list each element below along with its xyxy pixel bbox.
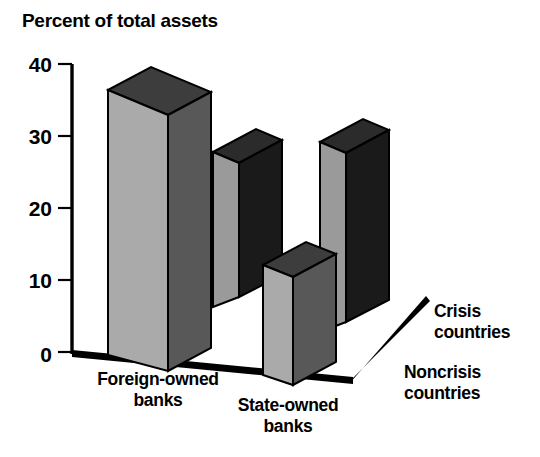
y-tick-label-40: 40 bbox=[29, 53, 52, 76]
legend-item-crisis-countries-line2: countries bbox=[434, 322, 511, 342]
y-tick-label-30: 30 bbox=[29, 125, 52, 148]
bar-chart-plot: 40 30 20 10 0 bbox=[0, 0, 540, 457]
legend-item-noncrisis-countries-line1: Noncrisis bbox=[404, 362, 482, 382]
y-tick-label-0: 0 bbox=[40, 343, 52, 366]
y-axis: 40 30 20 10 0 bbox=[29, 53, 72, 366]
bar-noncrisis-foreign-owned bbox=[108, 67, 211, 371]
chart-container: Percent of total assets 40 30 20 10 0 bbox=[0, 0, 540, 457]
legend-item-crisis-countries-line1: Crisis bbox=[434, 301, 481, 321]
bar-noncrisis-state-owned bbox=[263, 242, 336, 385]
y-tick-label-20: 20 bbox=[29, 197, 52, 220]
x-category-label-foreign-owned-line2: banks bbox=[133, 390, 183, 410]
x-category-label-foreign-owned-line1: Foreign-owned bbox=[97, 369, 219, 389]
x-category-label-state-owned-line2: banks bbox=[263, 416, 313, 436]
chart-legend: Crisis countries Noncrisis countries bbox=[404, 301, 511, 403]
y-tick-label-10: 10 bbox=[29, 269, 52, 292]
x-category-label-state-owned-line1: State-owned bbox=[238, 395, 339, 415]
legend-item-noncrisis-countries-line2: countries bbox=[404, 383, 481, 403]
